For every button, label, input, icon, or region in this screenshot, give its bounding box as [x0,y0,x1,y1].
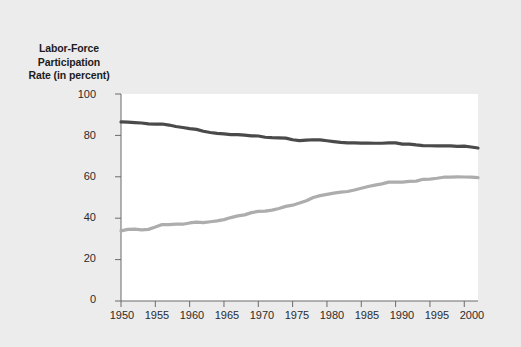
plot-canvas [0,0,521,347]
chart-figure: Labor-Force Participation Rate (in perce… [0,0,521,347]
